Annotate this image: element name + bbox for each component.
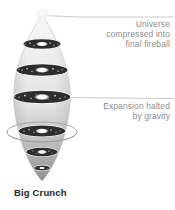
- galaxy-disk-4: [18, 125, 67, 137]
- annotation-line: Universe: [74, 19, 170, 29]
- annotation-line: compressed into: [74, 29, 170, 39]
- leader-line-expansion-halted: [68, 98, 174, 99]
- leader-line-universe-compressed: [43, 16, 175, 18]
- annotation-line: final fireball: [74, 39, 170, 49]
- galaxy-disk-5: [26, 147, 59, 157]
- apex-glow: [33, 7, 51, 21]
- annotation-expansion-halted: Expansion halted by gravity: [74, 101, 170, 121]
- galaxy-disk-6: [33, 165, 50, 171]
- galaxy-disk-3: [13, 90, 72, 104]
- annotation-universe-compressed: Universe compressed into final fireball: [74, 19, 170, 50]
- annotation-line: by gravity: [74, 111, 170, 121]
- galaxy-disk-2: [16, 64, 69, 77]
- figure-canvas: Universe compressed into final fireball …: [0, 0, 174, 210]
- annotation-line: Expansion halted: [74, 101, 170, 111]
- figure-caption: Big Crunch: [14, 187, 67, 198]
- galaxy-disk-1: [23, 39, 62, 50]
